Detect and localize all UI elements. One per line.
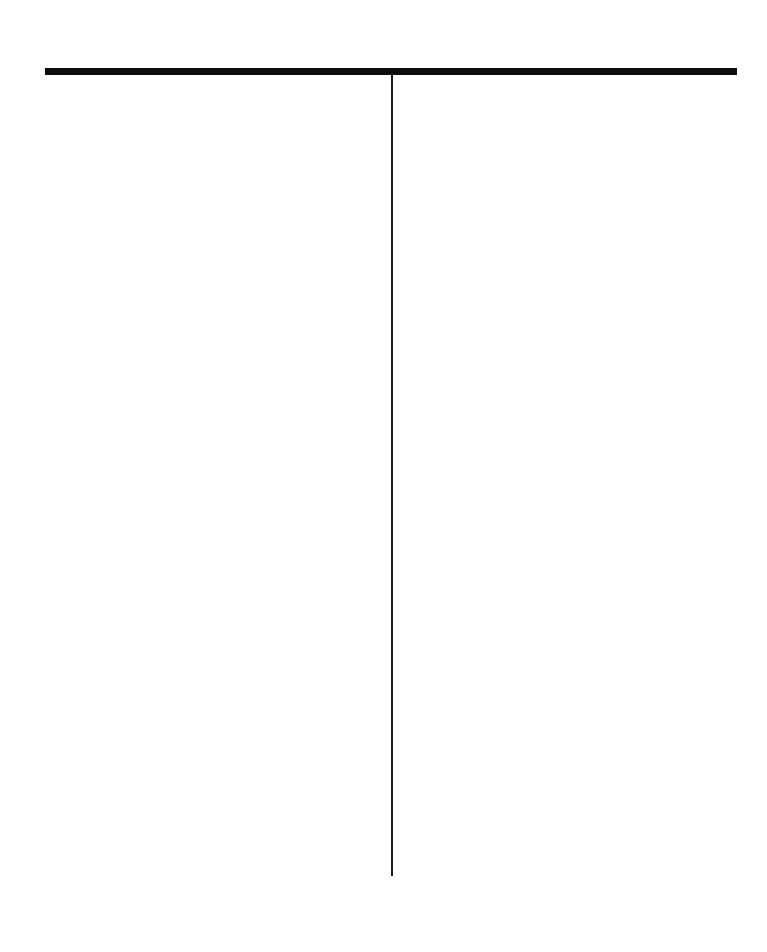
figure-canvas	[0, 0, 767, 952]
vertical-stem	[391, 74, 393, 876]
